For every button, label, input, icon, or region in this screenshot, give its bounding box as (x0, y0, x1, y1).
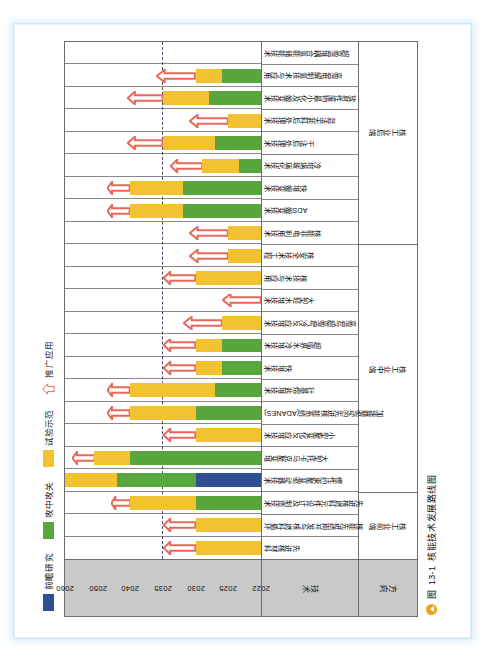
technology-label: 超临界水冷堆技术 (264, 341, 321, 349)
bar-column (65, 181, 261, 195)
technology-label: 快堆技术 (264, 364, 292, 372)
technology-label: 混法无盐料后处理技术 (264, 116, 335, 124)
legend-label-demo: 试验示范 (42, 409, 54, 446)
technology-label: 核技术与应用 (264, 274, 307, 282)
technology-label: 钍基熔盐堆技术 (264, 386, 314, 394)
technology-label-cell: 核能先进结构开发与核燃料循环 (262, 513, 358, 536)
bar-column (65, 136, 261, 150)
technology-label: 加速器驱动的先进核能系统(ADANES) (264, 409, 384, 417)
technology-label: 先进核燃料元件设计及制造技术 (264, 499, 363, 507)
bar-column (65, 203, 261, 217)
bar-column (65, 338, 261, 352)
year-tick-2060: 2060 (49, 560, 81, 616)
technology-label-cell: 钍基熔盐堆技术 (262, 378, 358, 401)
legend-label-keygap: 攻中攻关 (42, 481, 54, 518)
technology-label: 超高温堆耦合氢能储能技术 (264, 49, 349, 57)
bar-segment-demo (195, 360, 221, 374)
bar-column (65, 113, 261, 127)
rollout-arrow-icon (163, 518, 196, 532)
technology-label: 核能先进结构开发与核燃料循环 (264, 521, 363, 529)
bar-column (65, 158, 261, 172)
bar-column (65, 405, 261, 419)
bar-segment-keygap (195, 495, 260, 509)
bar-segment-demo (130, 181, 182, 195)
technology-label: 快堆嬗变技术 (264, 184, 307, 192)
technology-label: 小型聚变化反应堆技术 (264, 431, 335, 439)
technology-label-cell: 先进核材料 (262, 536, 358, 559)
bar-segment-demo (195, 428, 260, 442)
rollout-arrow-icon (189, 226, 228, 240)
bar-segment-demo (195, 518, 260, 532)
rollout-arrow-icon (71, 450, 94, 464)
technology-label: 核能非电利用技术 (264, 229, 321, 237)
bar-segment-demo (221, 316, 260, 330)
rollout-arrow-icon (110, 495, 130, 509)
bar-segment-keygap (239, 158, 261, 172)
rollout-arrow-icon (127, 136, 163, 150)
year-tick-2025: 2025 (212, 560, 244, 616)
rollout-arrow-icon (163, 360, 196, 374)
technology-label-cell: 惯性约束聚变驱动器技术 (262, 468, 358, 491)
technology-label: 先进核材料 (264, 544, 300, 552)
technology-label-cell: 核技术与应用 (262, 266, 358, 289)
technology-label-columns: 先进核材料核能先进结构开发与核燃料循环先进核燃料元件设计及制造技术惯性约束聚变驱… (262, 42, 358, 559)
bar-segment-keygap (117, 473, 195, 487)
bar-column (65, 428, 261, 442)
bar-segment-demo (130, 495, 195, 509)
bar-column (65, 46, 261, 60)
rollout-arrow-icon (169, 158, 202, 172)
bar-segment-demo (195, 68, 221, 82)
bar-segment-demo (163, 91, 209, 105)
caption-number: 13-1 (426, 565, 436, 584)
technology-label-cell: 高温与超高温气冷反应堆技术 (262, 311, 358, 334)
technology-label: 干法后处理技术 (264, 139, 314, 147)
technology-label: 核安全技术工程 (264, 251, 314, 259)
direction-group-band: 方向 核工业前端核工业中端核工业后端 (358, 42, 417, 616)
rollout-arrow-icon (221, 293, 260, 307)
rollout-arrow-icon (182, 316, 221, 330)
direction-group-cell: 核工业前端 (359, 491, 417, 558)
technology-label-cell: 高温电解制氢技术与应用 (262, 63, 358, 86)
bar-segment-demo (163, 136, 215, 150)
legend-item-keygap: 攻中攻关 (42, 481, 54, 539)
bar-column (65, 518, 261, 532)
bar-column (65, 316, 261, 330)
bar-segment-demo (202, 158, 239, 172)
bar-segment-demo (195, 540, 260, 554)
plot-row: 2022202520302035204020502060 (65, 42, 261, 616)
bar-segment-keygap (215, 136, 261, 150)
bar-segment-keygap (195, 405, 260, 419)
direction-group-cell: 核工业后端 (359, 19, 417, 244)
bar-column (65, 495, 261, 509)
technology-label-cell: 快堆嬗变技术 (262, 176, 358, 199)
technology-label-cell: ADS嬗变技术 (262, 198, 358, 221)
technology-label: 惯性约束聚变驱动器技术 (264, 476, 342, 484)
technology-label-cell: 加速器驱动的先进核能系统(ADANES) (262, 401, 358, 424)
rollout-arrow-icon (107, 203, 130, 217)
figure-caption: 图 13-1 核能技术发展路线图 (425, 41, 438, 615)
legend: 前瞻研究攻中攻关试验示范推广应用 (38, 41, 58, 611)
rollout-arrow-icon (163, 540, 196, 554)
rollout-arrow-icon (41, 381, 54, 395)
technology-label: 高温电解制氢技术与应用 (264, 71, 342, 79)
bar-segment-keygap (221, 360, 260, 374)
bar-column (65, 473, 261, 487)
technology-label-cell: 冷坩埚玻璃化技术 (262, 153, 358, 176)
rollout-arrow-icon (127, 91, 163, 105)
bar-segment-keygap (130, 450, 261, 464)
direction-group-label: 核工业中端 (369, 362, 406, 373)
legend-item-rollout: 推广应用 (41, 340, 54, 395)
bar-column (65, 68, 261, 82)
bar-segment-keygap (221, 338, 260, 352)
technology-label-block: 技术 先进核材料核能先进结构开发与核燃料循环先进核燃料元件设计及制造技术惯性约束… (261, 42, 358, 616)
bar-column (65, 248, 261, 262)
year-axis: 2022202520302035204020502060 (65, 559, 261, 616)
caption-text: 核能技术发展路线图 (425, 474, 438, 560)
bar-segment-demo (130, 383, 215, 397)
rollout-arrow-icon (107, 383, 130, 397)
legend-item-demo: 试验示范 (42, 409, 54, 467)
bar-segment-frontier (195, 473, 260, 487)
bar-column (65, 383, 261, 397)
technology-label: 冷坩埚玻璃化技术 (264, 161, 321, 169)
bar-column (65, 540, 261, 554)
